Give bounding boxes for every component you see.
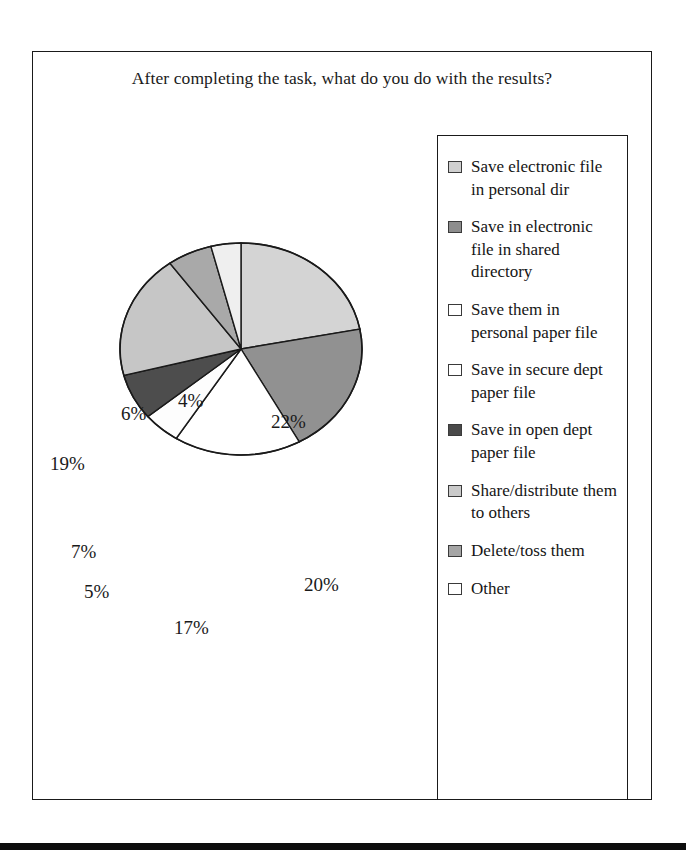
page-canvas: After completing the task, what do you d… [0, 0, 686, 867]
legend-item: Save electronic file in personal dir [448, 156, 619, 201]
legend-swatch-icon [448, 161, 462, 173]
legend-item: Save them in personal paper file [448, 299, 619, 344]
pie-svg [33, 122, 438, 782]
legend-item-label: Save electronic file in personal dir [471, 156, 619, 201]
legend-item-label: Save in electronic file in shared direct… [471, 216, 619, 284]
legend-item: Share/distribute them to others [448, 480, 619, 525]
legend-item: Delete/toss them [448, 540, 619, 563]
legend-swatch-icon [448, 485, 462, 497]
legend-swatch-icon [448, 424, 462, 436]
legend-swatch-icon [448, 364, 462, 376]
pie-percent-label: 6% [121, 403, 146, 425]
legend-item: Other [448, 578, 619, 601]
pie-percent-label: 19% [50, 453, 85, 475]
pie-percent-label: 4% [178, 390, 203, 412]
legend-item-label: Save in secure dept paper file [471, 359, 619, 404]
legend-swatch-icon [448, 583, 462, 595]
pie-percent-label: 5% [84, 581, 109, 603]
legend-item: Save in secure dept paper file [448, 359, 619, 404]
legend-item: Save in electronic file in shared direct… [448, 216, 619, 284]
legend-item-label: Delete/toss them [471, 540, 585, 563]
page-bottom-rule [0, 843, 686, 850]
legend-swatch-icon [448, 304, 462, 316]
chart-legend: Save electronic file in personal dirSave… [437, 135, 628, 800]
legend-item-label: Save them in personal paper file [471, 299, 619, 344]
legend-item-label: Save in open dept paper file [471, 419, 619, 464]
legend-item-label: Share/distribute them to others [471, 480, 619, 525]
pie-percent-label: 22% [271, 411, 306, 433]
chart-frame: After completing the task, what do you d… [32, 51, 652, 800]
legend-item: Save in open dept paper file [448, 419, 619, 464]
pie-percent-label: 20% [304, 574, 339, 596]
pie-percent-label: 17% [174, 617, 209, 639]
legend-swatch-icon [448, 221, 462, 233]
legend-swatch-icon [448, 545, 462, 557]
legend-item-list: Save electronic file in personal dirSave… [448, 156, 619, 600]
chart-title: After completing the task, what do you d… [33, 68, 651, 89]
pie-chart: 22%20%17%5%7%19%6%4% [33, 122, 438, 782]
pie-percent-label: 7% [71, 541, 96, 563]
pie-slices [120, 243, 362, 455]
legend-item-label: Other [471, 578, 510, 601]
